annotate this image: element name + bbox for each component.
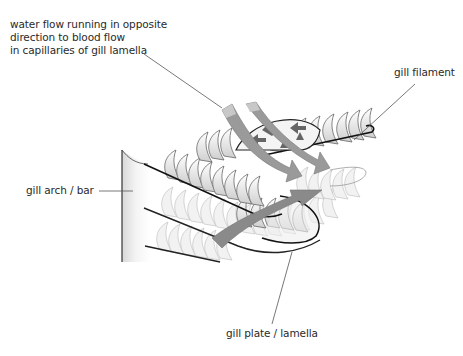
label-gill-arch: gill arch / bar [26, 184, 94, 197]
label-water-flow-line1: water flow running in opposite [10, 18, 167, 31]
leader-gill-plate [272, 252, 292, 324]
label-water-flow-line3: in capillaries of gill lamella [10, 44, 167, 57]
label-gill-plate: gill plate / lamella [226, 327, 318, 340]
gill-arch [122, 150, 150, 262]
label-water-flow-line2: direction to blood flow [10, 31, 167, 44]
leader-water-flow [144, 54, 222, 108]
leader-gill-filament [354, 84, 415, 140]
label-water-flow: water flow running in opposite direction… [10, 18, 167, 57]
label-gill-filament: gill filament [394, 66, 455, 79]
